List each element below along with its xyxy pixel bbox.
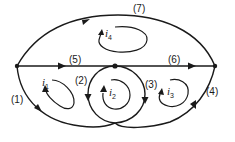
mesh-i4-label: i4 — [105, 27, 112, 41]
mesh-i1-label: i1 — [42, 76, 49, 90]
branch-7-wire — [17, 15, 215, 66]
branch-1-label: (1) — [11, 94, 23, 105]
branch-4-label: (4) — [206, 86, 218, 97]
branch-5-arrow-icon — [58, 63, 66, 70]
branch-2-label: (2) — [75, 75, 87, 86]
branch-3-arrow-icon — [142, 97, 149, 104]
mesh-i3-arrow-icon — [158, 88, 164, 95]
mesh-i2-arrow-icon — [100, 85, 107, 92]
branch-2-arrow-icon — [85, 94, 92, 101]
mesh-i3-label: i3 — [167, 85, 174, 99]
mesh-i2-label: i2 — [109, 86, 116, 100]
mesh-i1-loop — [46, 80, 74, 109]
branch-7-arrow-icon — [82, 19, 90, 25]
node-middle — [112, 63, 117, 68]
branch-6-arrow-icon — [188, 63, 196, 70]
node-right — [213, 64, 217, 68]
circuit-graph-diagram: (7) (5) (6) (2) (3) (1) (4) i4 i1 i2 i3 — [0, 0, 235, 142]
node-left — [15, 64, 19, 68]
mesh-i4-arrow-icon — [98, 29, 104, 35]
branch-3-label: (3) — [145, 79, 157, 90]
mesh-i2-loop — [103, 80, 130, 109]
branch-7-label: (7) — [133, 3, 145, 14]
branch-6-label: (6) — [168, 54, 180, 65]
branch-5-label: (5) — [69, 54, 81, 65]
